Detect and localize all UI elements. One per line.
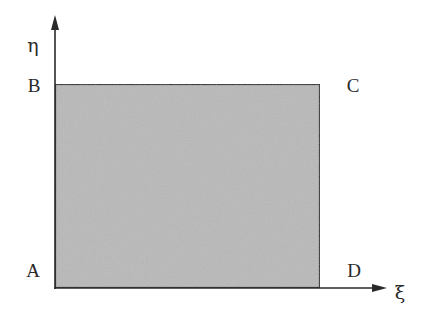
diagram-canvas: η ξ B C A D [0, 0, 422, 315]
eta-axis-label: η [27, 34, 38, 56]
eta-axis-arrowhead-icon [51, 15, 59, 30]
vertex-label-b: B [28, 75, 41, 96]
vertex-label-a: A [26, 260, 40, 281]
vertex-label-c: C [347, 75, 360, 96]
vertex-label-d: D [347, 260, 361, 281]
domain-rectangle [55, 84, 320, 288]
xi-axis-label: ξ [395, 281, 405, 303]
xi-axis-arrowhead-icon [372, 284, 387, 292]
